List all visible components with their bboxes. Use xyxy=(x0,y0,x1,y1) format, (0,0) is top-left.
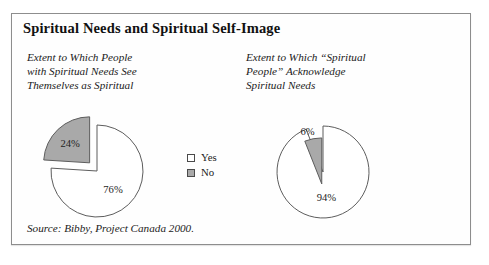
legend-swatch-yes-icon xyxy=(187,154,195,162)
legend-swatch-no-icon xyxy=(187,169,195,177)
legend-label-yes: Yes xyxy=(201,150,217,165)
panel-caption-right: Extent to Which “Spiritual People” Ackno… xyxy=(246,50,436,93)
legend: Yes No xyxy=(187,150,217,180)
pie-right-label-no: 6% xyxy=(301,126,315,137)
figure-container: Spiritual Needs and Spiritual Self-Image… xyxy=(0,0,489,265)
pie-right-label-yes: 94% xyxy=(317,192,337,203)
source-note: Source: Bibby, Project Canada 2000. xyxy=(27,222,194,234)
pie-chart-left: 76% 24% xyxy=(34,116,170,228)
legend-item-yes[interactable]: Yes xyxy=(187,150,217,165)
legend-label-no: No xyxy=(201,165,214,180)
panel-caption-left: Extent to Which People with Spiritual Ne… xyxy=(27,50,202,93)
pie-left-label-yes: 76% xyxy=(103,184,123,195)
figure-title: Spiritual Needs and Spiritual Self-Image xyxy=(23,20,280,37)
legend-item-no[interactable]: No xyxy=(187,165,217,180)
pie-chart-right: 94% 6% xyxy=(264,120,404,240)
pie-right-slice-yes xyxy=(277,126,369,218)
pie-left-label-no: 24% xyxy=(60,138,80,149)
